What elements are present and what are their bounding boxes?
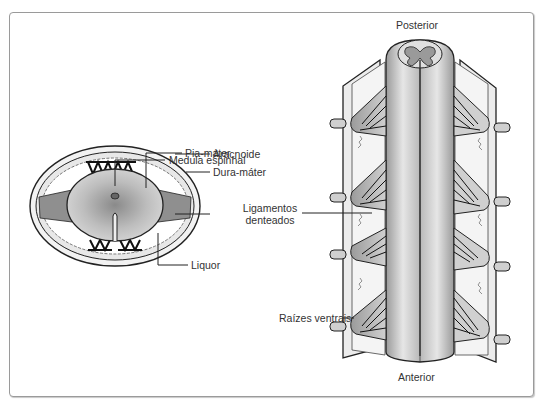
- label-anterior: Anterior: [398, 371, 435, 383]
- label-aracnoide: Aracnoide: [213, 148, 260, 160]
- label-liquor: Liquor: [191, 259, 220, 271]
- label-ligamentos-line1: Ligamentos: [243, 202, 297, 214]
- label-raizes-ventrais: Raízes ventrais: [279, 312, 351, 324]
- label-ligamentos-line2: denteados: [245, 214, 294, 226]
- label-dura-mater: Dura-máter: [213, 166, 266, 178]
- label-ligamentos-denteados: Ligamentos denteados: [238, 202, 302, 226]
- spinal-meninges-illustration: [0, 0, 542, 402]
- label-posterior: Posterior: [396, 19, 438, 31]
